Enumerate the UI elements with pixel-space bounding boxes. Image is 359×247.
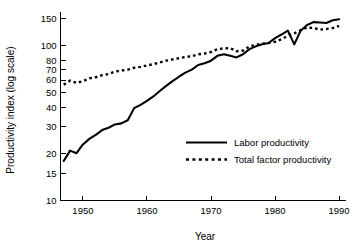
y-axis-ticks: 101520304050607080100150	[41, 13, 66, 206]
x-axis-ticks: 19501960197019801990	[72, 196, 349, 216]
legend-label-labor-productivity: Labor productivity	[234, 137, 309, 148]
x-axis-title: Year	[195, 231, 216, 242]
x-tick-label: 1950	[72, 205, 93, 216]
x-tick-label: 1970	[200, 205, 221, 216]
x-tick-label: 1990	[329, 205, 350, 216]
y-tick-label: 150	[41, 13, 57, 24]
chart-canvas: 101520304050607080100150 195019601970198…	[0, 0, 359, 247]
x-tick-label: 1980	[264, 205, 285, 216]
productivity-chart-figure: 101520304050607080100150 195019601970198…	[0, 0, 359, 247]
y-tick-label: 60	[46, 74, 57, 85]
y-tick-label: 80	[46, 55, 57, 66]
chart-legend: Labor productivity Total factor producti…	[186, 137, 331, 165]
y-tick-label: 50	[46, 87, 57, 98]
y-tick-label: 15	[46, 168, 57, 179]
y-tick-label: 40	[46, 102, 57, 113]
y-tick-label: 100	[41, 40, 57, 51]
legend-label-total-factor-productivity: Total factor productivity	[234, 154, 331, 165]
y-tick-label: 30	[46, 121, 57, 132]
y-tick-label: 20	[46, 148, 57, 159]
y-tick-label: 10	[46, 195, 57, 206]
y-axis-title: Productivity index (log scale)	[5, 46, 16, 173]
x-tick-label: 1960	[136, 205, 157, 216]
